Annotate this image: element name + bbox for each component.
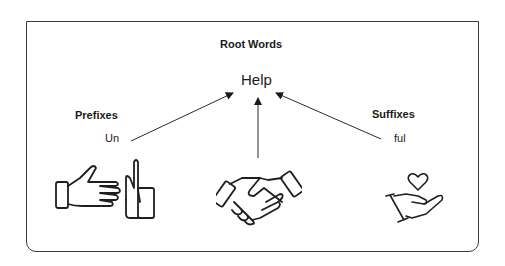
hand-stop-icon [54, 158, 158, 222]
arrows [0, 0, 505, 266]
prefix-arrow [131, 93, 233, 141]
hand-holding-heart-icon [384, 172, 450, 226]
suffix-arrow [276, 93, 381, 139]
handshake-icon [216, 168, 302, 226]
